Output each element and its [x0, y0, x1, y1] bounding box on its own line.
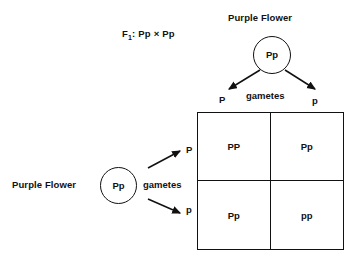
top-parent-genotype-label: Pp	[266, 50, 278, 60]
left-gametes-label: gametes	[143, 180, 182, 190]
top-gamete-left-allele: P	[219, 95, 225, 105]
top-parent-genotype-circle: Pp	[253, 36, 291, 74]
top-gametes-label: gametes	[246, 91, 285, 101]
f1-cross-expression: : Pp × Pp	[132, 28, 175, 39]
left-parent-genotype-label: Pp	[112, 181, 124, 191]
arrow-top-parent-to-left-gamete	[229, 70, 260, 89]
arrow-left-parent-to-bottom-gamete	[148, 199, 180, 213]
punnett-cell-1-0: Pp	[198, 181, 271, 249]
punnett-cell-0-1: Pp	[271, 113, 344, 181]
left-parent-title: Purple Flower	[12, 180, 76, 190]
punnett-cell-1-1: pp	[271, 181, 344, 249]
punnett-grid: PP Pp Pp pp	[197, 112, 344, 250]
arrow-left-parent-to-top-gamete	[148, 151, 180, 168]
arrow-top-parent-to-right-gamete	[285, 70, 315, 89]
f1-cross-notation: F1: Pp × Pp	[122, 29, 175, 41]
left-gamete-bottom-allele: p	[186, 205, 192, 215]
punnett-square-diagram: F1: Pp × Pp Purple Flower Pp gametes P p…	[0, 0, 360, 270]
top-parent-title: Purple Flower	[228, 13, 292, 23]
top-gamete-right-allele: p	[312, 96, 318, 106]
punnett-cell-0-0: PP	[198, 113, 271, 181]
left-gamete-top-allele: P	[186, 145, 192, 155]
left-parent-genotype-circle: Pp	[100, 167, 137, 204]
